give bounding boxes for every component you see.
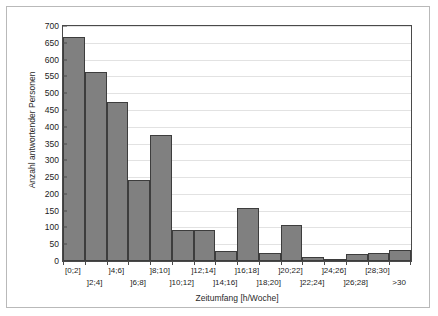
x-tick-mark — [194, 261, 195, 265]
x-tick-label: ]10;12] — [169, 278, 193, 287]
x-tick-mark — [237, 261, 238, 265]
x-axis-title: Zeitumfang [h/Woche] — [62, 293, 412, 303]
y-tick-label: 450 — [45, 105, 59, 115]
y-tick-mark — [63, 227, 67, 228]
x-tick-mark — [215, 261, 216, 265]
y-tick-mark — [63, 109, 67, 110]
y-tick-mark — [63, 26, 67, 27]
bar — [128, 180, 150, 261]
x-tick-label: ]20;22] — [278, 266, 302, 275]
y-tick-mark — [63, 193, 67, 194]
x-tick-mark — [346, 261, 347, 265]
y-tick-mark — [63, 177, 67, 178]
y-tick-label: 700 — [45, 21, 59, 31]
bar — [237, 208, 259, 261]
x-tick-mark — [107, 261, 108, 265]
bar — [107, 102, 129, 261]
y-tick-label: 500 — [45, 88, 59, 98]
y-tick-label: 350 — [45, 139, 59, 149]
x-tick-mark — [63, 261, 64, 265]
y-axis-title: Anzahl antwortender Personen — [27, 45, 37, 215]
y-tick-mark — [63, 42, 67, 43]
y-tick-mark — [63, 59, 67, 60]
y-tick-mark — [63, 244, 67, 245]
x-tick-label: ]6;8] — [130, 278, 146, 287]
y-tick-label: 250 — [45, 172, 59, 182]
bar — [324, 259, 346, 261]
y-tick-label: 50 — [50, 239, 59, 249]
y-tick-mark — [63, 93, 67, 94]
x-tick-mark — [172, 261, 173, 265]
y-tick-label: 100 — [45, 222, 59, 232]
bar — [150, 135, 172, 261]
y-tick-label: 400 — [45, 122, 59, 132]
y-tick-label: 200 — [45, 189, 59, 199]
y-tick-mark — [63, 126, 67, 127]
x-tick-label: ]16;18] — [235, 266, 259, 275]
bar — [194, 230, 216, 261]
x-tick-mark — [259, 261, 260, 265]
bar — [215, 251, 237, 261]
y-tick-label: 0 — [54, 256, 59, 266]
x-tick-mark — [410, 261, 411, 265]
x-tick-mark — [150, 261, 151, 265]
y-tick-mark — [63, 143, 67, 144]
y-tick-mark — [63, 160, 67, 161]
y-tick-label: 550 — [45, 71, 59, 81]
x-tick-mark — [128, 261, 129, 265]
x-tick-mark — [389, 261, 390, 265]
y-tick-label: 150 — [45, 206, 59, 216]
x-tick-label: ]12;14] — [191, 266, 215, 275]
y-tick-mark — [63, 76, 67, 77]
x-tick-mark — [85, 261, 86, 265]
bar — [259, 253, 281, 261]
x-tick-label: ]2;4] — [87, 278, 103, 287]
plot-area: 0501001502002503003504004505005506006507… — [62, 25, 412, 262]
bar — [389, 250, 411, 261]
x-tick-mark — [302, 261, 303, 265]
x-tick-label: ]18;20] — [256, 278, 280, 287]
bar — [302, 257, 324, 261]
x-tick-label: >30 — [392, 278, 406, 287]
bar — [368, 253, 390, 261]
bar — [346, 254, 368, 261]
x-tick-label: ]22;24] — [300, 278, 324, 287]
bar — [281, 225, 303, 261]
bar — [172, 230, 194, 261]
x-tick-mark — [281, 261, 282, 265]
y-tick-mark — [63, 210, 67, 211]
bar — [85, 72, 107, 261]
x-tick-label: ]14;16] — [213, 278, 237, 287]
x-tick-label: ]26;28] — [343, 278, 367, 287]
x-tick-label: [28;30] — [365, 266, 389, 275]
x-tick-label: ]8;10] — [150, 266, 170, 275]
y-tick-label: 600 — [45, 55, 59, 65]
x-tick-label: ]4;6] — [109, 266, 125, 275]
x-tick-mark — [324, 261, 325, 265]
y-tick-label: 650 — [45, 38, 59, 48]
y-tick-label: 300 — [45, 155, 59, 165]
x-tick-mark — [368, 261, 369, 265]
x-tick-label: ]24;26] — [322, 266, 346, 275]
bar-series — [63, 26, 411, 261]
chart-figure: Anzahl antwortender Personen 05010015020… — [6, 6, 430, 308]
x-tick-label: [0;2] — [65, 266, 81, 275]
